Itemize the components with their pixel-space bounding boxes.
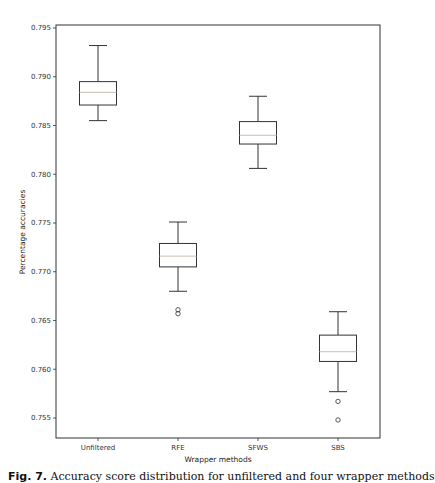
box-rfe <box>160 222 197 316</box>
caption-text: Accuracy score distribution for unfilter… <box>51 470 435 483</box>
iqr-box <box>240 122 277 144</box>
x-tick-label: SFWS <box>248 444 268 452</box>
y-tick-label: 0.770 <box>31 268 51 276</box>
iqr-box <box>80 82 117 105</box>
y-tick-label: 0.780 <box>31 171 51 179</box>
y-tick-label: 0.790 <box>31 73 51 81</box>
outlier-point <box>336 399 340 403</box>
box-unfiltered <box>80 46 117 121</box>
y-tick-label: 0.775 <box>31 219 51 227</box>
iqr-box <box>160 243 197 266</box>
iqr-box <box>320 335 357 361</box>
x-tick-label: SBS <box>331 444 345 452</box>
box-sbs <box>320 312 357 422</box>
x-tick-label: Unfiltered <box>81 444 115 452</box>
box-sfws <box>240 96 277 168</box>
x-axis-label: Wrapper methods <box>184 455 251 464</box>
y-axis-label: Percentage accuracies <box>18 190 27 275</box>
plot-area <box>56 25 380 438</box>
y-tick-label: 0.795 <box>31 24 51 32</box>
y-tick-label: 0.760 <box>31 366 51 374</box>
y-tick-label: 0.785 <box>31 122 51 130</box>
x-tick-label: RFE <box>171 444 184 452</box>
y-axis: 0.7550.7600.7650.7700.7750.7800.7850.790… <box>31 24 56 422</box>
y-tick-label: 0.765 <box>31 317 51 325</box>
caption-label: Fig. 7. <box>8 470 47 483</box>
y-tick-label: 0.755 <box>31 414 51 422</box>
figure-caption: Fig. 7. Accuracy score distribution for … <box>8 470 435 483</box>
x-axis: UnfilteredRFESFWSSBS <box>81 438 346 452</box>
outlier-point <box>336 418 340 422</box>
